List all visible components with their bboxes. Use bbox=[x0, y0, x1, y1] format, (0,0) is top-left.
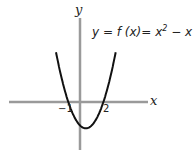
x-axis-label: x bbox=[150, 93, 157, 108]
tick-label-neg1: −1 bbox=[58, 103, 73, 114]
equation-label: y = f (x)= x2 − x − 2 bbox=[92, 24, 195, 39]
y-axis-label: y bbox=[75, 2, 82, 17]
tick-label-2: 2 bbox=[103, 103, 109, 114]
parabola-curve bbox=[56, 52, 116, 128]
